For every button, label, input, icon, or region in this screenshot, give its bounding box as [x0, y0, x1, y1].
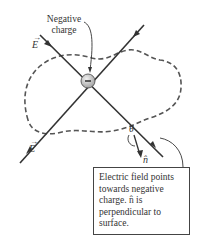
negative-charge-label: Negative charge [44, 14, 84, 36]
vector-arrow-icon: → [30, 138, 38, 146]
angle-label: θ [129, 124, 134, 134]
field-label-bottom: →E [29, 144, 35, 154]
normal-label: n̂ [143, 155, 148, 165]
field-label-top: →E [32, 40, 38, 50]
charge-pointer [84, 22, 92, 70]
callout-pointer [160, 138, 183, 167]
vector-arrow-icon: → [33, 34, 41, 42]
gaussian-surface [25, 50, 181, 134]
field-line-2 [20, 25, 144, 163]
charge-pointer-head [88, 67, 92, 73]
callout-box: Electric field points towards negative c… [93, 167, 190, 235]
